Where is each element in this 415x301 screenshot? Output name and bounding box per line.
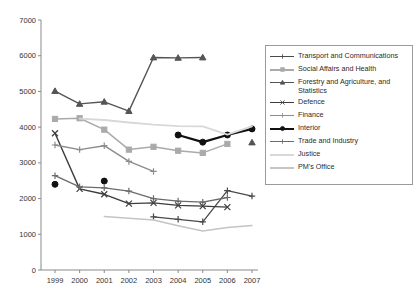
- legend-label: Justice: [298, 148, 320, 158]
- data-point-marker: [52, 116, 57, 121]
- x-tick-label: 2005: [194, 276, 211, 285]
- legend-item-8[interactable]: PM's Office: [270, 161, 409, 173]
- data-point-marker: [225, 141, 230, 146]
- legend-key-icon: [270, 51, 294, 62]
- series-5: [52, 126, 255, 187]
- legend-key-icon: [270, 77, 294, 88]
- y-tick-label: 1000: [19, 230, 36, 239]
- data-point-marker: [280, 126, 284, 130]
- series-6: [52, 173, 231, 206]
- data-point-marker: [280, 113, 284, 117]
- legend-key-icon: [270, 136, 294, 147]
- legend-key-icon: [270, 123, 294, 134]
- legend-marker-square-icon: [279, 66, 286, 73]
- x-tick-label: 2007: [244, 276, 261, 285]
- data-point-marker: [175, 132, 181, 138]
- legend-key-icon: [270, 149, 294, 160]
- data-point-marker: [101, 143, 107, 149]
- legend-item-6[interactable]: Trade and Industry: [270, 135, 409, 147]
- x-tick-label: 2001: [96, 276, 113, 285]
- legend-item-5[interactable]: Interior: [270, 122, 409, 134]
- data-point-marker: [175, 216, 181, 222]
- legend-item-1[interactable]: Social Affairs and Health: [270, 63, 409, 75]
- legend-item-3[interactable]: Defence: [270, 96, 409, 108]
- legend-marker-x-icon: [279, 99, 286, 106]
- x-tick-label: 2004: [170, 276, 187, 285]
- data-point-marker: [280, 54, 284, 58]
- legend-label: Finance: [298, 109, 324, 119]
- legend-item-2[interactable]: Forestry and Agriculture, and Statistics: [270, 76, 409, 95]
- data-point-marker: [101, 178, 107, 184]
- series-4: [52, 142, 157, 175]
- data-point-marker: [102, 127, 107, 132]
- data-point-marker: [200, 150, 205, 155]
- data-point-marker: [249, 139, 255, 145]
- y-tick-label: 0: [32, 266, 36, 275]
- data-point-marker: [52, 173, 58, 179]
- x-tick-label: 2000: [71, 276, 88, 285]
- legend-item-4[interactable]: Finance: [270, 109, 409, 121]
- y-tick-label: 5000: [19, 87, 36, 96]
- data-point-marker: [101, 185, 107, 191]
- data-point-marker: [151, 144, 156, 149]
- legend-marker-circle-icon: [279, 125, 286, 132]
- data-point-marker: [52, 88, 58, 94]
- data-point-marker: [150, 214, 156, 220]
- data-point-marker: [280, 139, 284, 143]
- legend-label: Interior: [298, 122, 320, 132]
- data-point-marker: [281, 68, 285, 72]
- legend-marker-triangle-icon: [279, 79, 286, 86]
- y-tick-label: 7000: [19, 16, 36, 25]
- legend-key-icon: [270, 110, 294, 121]
- legend-label: PM's Office: [298, 161, 334, 171]
- legend-item-0[interactable]: Transport and Communications: [270, 50, 409, 62]
- chart-legend: Transport and CommunicationsSocial Affai…: [265, 45, 413, 185]
- legend-key-icon: [270, 64, 294, 75]
- legend-label: Trade and Industry: [298, 135, 358, 145]
- data-point-marker: [52, 181, 58, 187]
- data-point-marker: [280, 100, 284, 104]
- legend-marker-plus-icon: [279, 138, 286, 145]
- data-point-marker: [76, 146, 82, 152]
- data-point-marker: [249, 193, 255, 199]
- data-point-marker: [224, 194, 230, 200]
- y-tick-label: 6000: [19, 51, 36, 60]
- data-point-marker: [280, 80, 284, 84]
- series-2: [52, 54, 255, 145]
- legend-marker-plus-icon: [279, 112, 286, 119]
- line-chart: 0100020003000400050006000700019992000200…: [0, 0, 415, 301]
- series-line: [55, 58, 203, 112]
- data-point-marker: [176, 148, 181, 153]
- legend-key-icon: [270, 162, 294, 173]
- legend-item-7[interactable]: Justice: [270, 148, 409, 160]
- legend-label: Social Affairs and Health: [298, 63, 376, 73]
- data-point-marker: [126, 188, 132, 194]
- legend-label: Defence: [298, 96, 325, 106]
- legend-key-icon: [270, 97, 294, 108]
- x-tick-label: 2002: [121, 276, 138, 285]
- legend-label: Forestry and Agriculture, and Statistics: [298, 76, 390, 95]
- y-tick-label: 2000: [19, 194, 36, 203]
- data-point-marker: [52, 142, 58, 148]
- data-point-marker: [126, 147, 131, 152]
- y-tick-label: 4000: [19, 123, 36, 132]
- x-tick-label: 1999: [47, 276, 64, 285]
- y-tick-label: 3000: [19, 158, 36, 167]
- legend-marker-plus-icon: [279, 53, 286, 60]
- x-tick-label: 2006: [219, 276, 236, 285]
- data-point-marker: [52, 130, 58, 136]
- data-point-marker: [200, 139, 206, 145]
- legend-label: Transport and Communications: [298, 50, 398, 60]
- x-tick-label: 2003: [145, 276, 162, 285]
- data-point-marker: [150, 168, 156, 174]
